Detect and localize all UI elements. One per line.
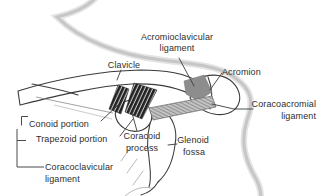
label-coracoclavicular-ligament-line1: Coracoclavicular (45, 162, 113, 172)
scapula-hatch-lines (121, 147, 151, 196)
label-glenoid-fossa-line1: Glenoid (177, 135, 209, 145)
label-acromioclavicular-ligament-line2: ligament (160, 43, 195, 53)
leader-glenoid-fossa (168, 144, 177, 145)
glenoid-fossa-rim (158, 109, 176, 182)
shoulder-diagram: Acromioclavicular ligament Clavicle Acro… (0, 0, 318, 196)
label-clavicle: Clavicle (108, 60, 140, 70)
label-acromioclavicular-ligament-line1: Acromioclavicular (141, 32, 213, 42)
label-coracoacromial-ligament-line2: ligament (281, 111, 316, 121)
shoulder-anatomy-figure: Acromioclavicular ligament Clavicle Acro… (0, 0, 318, 196)
clavicle-bone-shape (18, 70, 197, 105)
label-coracoacromial-ligament-line1: Coracoacromial (252, 99, 316, 109)
bracket-conoid-portion (22, 117, 29, 126)
label-glenoid-fossa-line2: fossa (183, 147, 205, 157)
scapula-superior-lines (36, 97, 113, 119)
label-acromion: Acromion (222, 67, 261, 77)
coracoacromial-ligament-band (149, 96, 216, 120)
label-conoid-portion: Conoid portion (29, 119, 89, 129)
label-coracoclavicular-ligament-line2: ligament (45, 174, 80, 184)
label-coracoid-process-line2: process (126, 143, 159, 153)
label-coracoid-process-line1: Coracoid (124, 131, 161, 141)
label-trapezoid-portion: Trapezoid portion (36, 134, 107, 144)
